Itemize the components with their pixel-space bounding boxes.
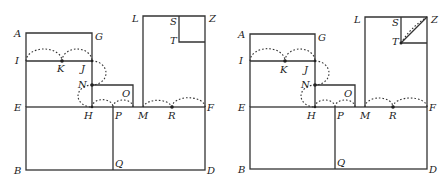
label-J: J <box>302 64 309 75</box>
label-F: F <box>428 102 437 113</box>
label-Z: Z <box>430 14 439 25</box>
label-H: H <box>306 110 316 121</box>
label-D: D <box>206 165 215 176</box>
arc-RF <box>172 98 205 107</box>
geometric-construction-right: A G I K J N O E H P M R F B Q D L S T Z <box>224 0 448 186</box>
arc-KJ <box>62 49 92 61</box>
figure-right-panel: A G I K J N O E H P M R F B Q D L S T Z <box>224 0 448 186</box>
arc-PO <box>113 100 133 107</box>
label-J: J <box>79 63 86 74</box>
arc-RF <box>393 98 427 107</box>
label-D: D <box>428 164 437 175</box>
label-L: L <box>131 13 139 24</box>
square-ST <box>179 16 205 42</box>
arc-MR <box>143 100 172 107</box>
arc-MR <box>365 98 393 107</box>
label-O: O <box>344 88 352 99</box>
rect-LZ <box>143 16 205 107</box>
geometric-construction-left: A G I K J N O E H P M R F B Q D L S T Z <box>0 0 224 186</box>
label-E: E <box>237 102 246 113</box>
arc-KJ <box>285 49 315 61</box>
arc-JN <box>315 61 329 85</box>
arc-JN <box>92 61 106 85</box>
label-B: B <box>237 164 245 175</box>
point-N <box>313 83 317 87</box>
label-R: R <box>388 110 397 121</box>
label-S: S <box>170 16 177 27</box>
label-M: M <box>137 110 149 121</box>
point-R <box>170 105 174 109</box>
point-H <box>91 106 94 109</box>
point-J <box>91 60 94 63</box>
arc-HP <box>92 100 113 107</box>
shapes <box>26 16 205 170</box>
rect-LZ <box>365 17 427 107</box>
point-R <box>391 105 395 109</box>
label-B: B <box>13 165 21 176</box>
label-E: E <box>13 102 22 113</box>
arc-PO <box>335 100 355 107</box>
arc-IK <box>26 49 62 61</box>
figure-left-panel: A G I K J N O E H P M R F B Q D L S T Z <box>0 0 224 186</box>
label-M: M <box>359 110 371 121</box>
labels: A G I K J N O E H P M R F B Q D L S T Z <box>237 14 439 175</box>
label-T: T <box>170 35 178 46</box>
label-Q: Q <box>115 158 123 169</box>
label-G: G <box>95 31 103 42</box>
point-H <box>314 106 317 109</box>
label-L: L <box>353 14 361 25</box>
label-N: N <box>300 79 311 90</box>
point-K <box>283 59 287 63</box>
point-N <box>90 83 94 87</box>
point-J <box>314 60 317 63</box>
arc-IK <box>250 49 285 61</box>
point-T <box>400 42 403 45</box>
label-I: I <box>238 55 244 66</box>
label-A: A <box>237 29 245 40</box>
dotted-arcs <box>26 49 205 107</box>
label-R: R <box>167 110 176 121</box>
labels: A G I K J N O E H P M R F B Q D L S T Z <box>13 13 217 176</box>
label-H: H <box>83 110 93 121</box>
label-F: F <box>206 102 215 113</box>
label-K: K <box>279 64 288 75</box>
label-Q: Q <box>337 157 345 168</box>
label-Z: Z <box>208 13 217 24</box>
label-N: N <box>77 79 88 90</box>
label-P: P <box>336 110 344 121</box>
label-T: T <box>392 36 400 47</box>
label-A: A <box>13 28 21 39</box>
label-K: K <box>56 63 65 74</box>
diagonal-TZ <box>401 17 427 43</box>
label-G: G <box>318 32 326 43</box>
shapes <box>250 17 427 169</box>
label-S: S <box>392 17 399 28</box>
label-P: P <box>114 110 122 121</box>
label-O: O <box>122 88 130 99</box>
arc-HP <box>315 100 335 107</box>
label-I: I <box>14 55 20 66</box>
